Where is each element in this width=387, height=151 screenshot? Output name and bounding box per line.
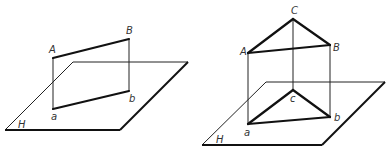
- label-b: b: [129, 93, 135, 104]
- label-b: b: [334, 112, 340, 123]
- label-B: B: [126, 25, 133, 36]
- edge-ab: [248, 117, 330, 124]
- figure-triangle-projection: C A B c a b H: [202, 5, 385, 145]
- label-A: A: [48, 44, 56, 55]
- plane-h-left-edge: [5, 62, 73, 130]
- edge-AC: [248, 19, 293, 53]
- projection-diagram: A B b a H C A B c a b H: [0, 0, 387, 151]
- label-B: B: [333, 42, 340, 53]
- segment-ab: [53, 91, 129, 109]
- label-C: C: [291, 5, 298, 16]
- label-c: c: [290, 93, 296, 104]
- edge-cb: [293, 90, 330, 117]
- edge-CB: [293, 19, 330, 45]
- label-a: a: [51, 111, 57, 122]
- plane-h-right-edge: [322, 82, 385, 145]
- edge-ac: [248, 90, 293, 124]
- plane-h-left-edge: [202, 82, 266, 145]
- label-H: H: [216, 134, 224, 145]
- edge-AB: [248, 45, 330, 53]
- label-H: H: [18, 119, 26, 130]
- label-A: A: [239, 46, 247, 57]
- label-a: a: [244, 127, 250, 138]
- segment-AB: [53, 39, 129, 58]
- figure-line-projection: A B b a H: [5, 25, 188, 130]
